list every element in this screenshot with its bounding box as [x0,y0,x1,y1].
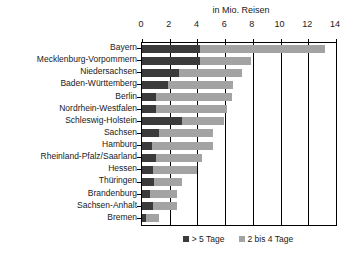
stacked-bar [142,154,202,162]
stacked-bar [142,45,325,53]
legend-label: 2 bis 4 Tage [248,234,294,244]
x-tick-label: 4 [194,19,199,29]
bar-row [142,176,336,187]
x-tick-label: 6 [222,19,227,29]
bar-segment-short-stay [152,142,213,150]
category-label: Baden-Württemberg [0,78,137,89]
x-tick-label: 8 [249,19,254,29]
bar-segment-short-stay [179,69,241,77]
bar-segment-long-stay [142,190,150,198]
stacked-bar [142,57,251,65]
bar-segment-short-stay [156,154,202,162]
stacked-bar [142,81,233,89]
bar-segment-short-stay [146,214,158,222]
stacked-bar [142,178,182,186]
bar-row [142,116,336,127]
bar-row [142,55,336,66]
bar-segment-short-stay [154,178,182,186]
bar-row [142,92,336,103]
bar-segment-short-stay [156,105,227,113]
bar-segment-short-stay [200,45,325,53]
category-label: Niedersachsen [0,66,137,77]
bar-row [142,79,336,90]
x-tick-label: 10 [275,19,285,29]
bar-segment-long-stay [142,154,156,162]
category-label: Sachsen [0,127,137,138]
chart-axis-title: in Mio. Reisen [141,5,341,15]
bar-row [142,152,336,163]
category-label: Bayern [0,42,137,53]
category-label: Berlin [0,91,137,102]
bar-segment-long-stay [142,93,156,101]
y-axis-category-labels: BayernMecklenburg-VorpommernNiedersachse… [0,42,137,224]
stacked-bar [142,166,197,174]
bar-segment-short-stay [150,190,176,198]
bar-segment-long-stay [142,57,200,65]
bar-segment-long-stay [142,45,200,53]
legend-item: 2 bis 4 Tage [239,234,294,244]
bar-row [142,189,336,200]
x-tick-label: 2 [166,19,171,29]
legend-label: > 5 Tage [192,234,225,244]
stacked-bar [142,93,232,101]
bar-segment-long-stay [142,129,159,137]
category-label: Thüringen [0,175,137,186]
bar-segment-long-stay [142,142,152,150]
plot-area [141,42,337,226]
bar-segment-short-stay [153,202,177,210]
bar-row [142,128,336,139]
bar-segment-long-stay [142,178,154,186]
category-label: Hessen [0,163,137,174]
stacked-bar [142,190,177,198]
bar-segment-long-stay [142,202,153,210]
stacked-bar [142,214,159,222]
bar-segment-long-stay [142,117,182,125]
category-label: Bremen [0,212,137,223]
bar-segment-short-stay [182,117,224,125]
stacked-bar [142,202,177,210]
bar-segment-long-stay [142,166,153,174]
x-tick-label: 14 [330,19,340,29]
stacked-bar [142,69,242,77]
bar-row [142,67,336,78]
x-tickmark [336,39,337,43]
x-tick-label: 0 [138,19,143,29]
category-label: Hamburg [0,139,137,150]
x-tick-label: 12 [302,19,312,29]
bar-segment-short-stay [156,93,232,101]
bar-segment-short-stay [200,57,251,65]
bar-row [142,201,336,212]
bar-row [142,164,336,175]
bar-rows [142,43,336,225]
category-label: Sachsen-Anhalt [0,200,137,211]
bar-row [142,43,336,54]
legend-item: > 5 Tage [183,234,225,244]
bar-segment-short-stay [168,81,233,89]
bar-row [142,213,336,224]
category-label: Nordrhein-Westfalen [0,103,137,114]
bar-segment-long-stay [142,81,168,89]
stacked-bar [142,117,224,125]
chart-container: in Mio. Reisen 02468101214 BayernMecklen… [0,0,357,257]
category-label: Mecklenburg-Vorpommern [0,54,137,65]
stacked-bar [142,142,213,150]
bar-segment-long-stay [142,69,179,77]
stacked-bar [142,105,227,113]
category-label: Brandenburg [0,188,137,199]
category-label: Schleswig-Holstein [0,115,137,126]
bar-segment-short-stay [159,129,213,137]
bar-segment-long-stay [142,105,156,113]
x-axis-tick-labels: 02468101214 [0,19,357,31]
category-label: Rheinland-Pfalz/Saarland [0,151,137,162]
chart-legend: > 5 Tage2 bis 4 Tage [141,234,335,244]
bar-row [142,104,336,115]
bar-segment-short-stay [153,166,197,174]
legend-swatch-icon [239,236,245,242]
bar-row [142,140,336,151]
stacked-bar [142,129,213,137]
legend-swatch-icon [183,236,189,242]
